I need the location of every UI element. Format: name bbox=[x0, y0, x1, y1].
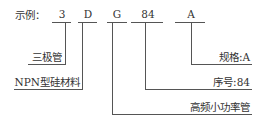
label-serial: 序号:84 bbox=[180, 76, 250, 88]
leader-d bbox=[82, 22, 83, 89]
underline-d bbox=[78, 22, 97, 23]
leader-3 bbox=[65, 22, 66, 64]
transistor-code-diagram: 示例： 3 D G 84 A 三极管 NPN型硅材料 规格:A 序号:84 高频… bbox=[0, 0, 268, 120]
code-part-g: G bbox=[107, 8, 127, 20]
code-part-d: D bbox=[78, 8, 98, 20]
label-triode: 三极管 bbox=[20, 51, 62, 63]
label-spec: 规格:A bbox=[190, 51, 250, 63]
code-part-a: A bbox=[176, 8, 206, 20]
underline-3 bbox=[52, 22, 71, 23]
line-material bbox=[14, 89, 83, 90]
label-material: NPN型硅材料 bbox=[10, 76, 80, 88]
code-part-3: 3 bbox=[52, 8, 72, 20]
line-spec bbox=[191, 64, 252, 65]
label-type: 高频小功率管 bbox=[170, 101, 250, 113]
code-part-84: 84 bbox=[133, 8, 163, 20]
underline-a bbox=[175, 22, 205, 23]
leader-g bbox=[112, 22, 113, 114]
underline-g bbox=[107, 22, 127, 23]
line-triode bbox=[28, 64, 66, 65]
underline-84 bbox=[131, 22, 163, 23]
line-type bbox=[112, 114, 252, 115]
line-serial bbox=[145, 89, 252, 90]
leader-84 bbox=[145, 22, 146, 89]
example-label: 示例： bbox=[15, 9, 45, 21]
